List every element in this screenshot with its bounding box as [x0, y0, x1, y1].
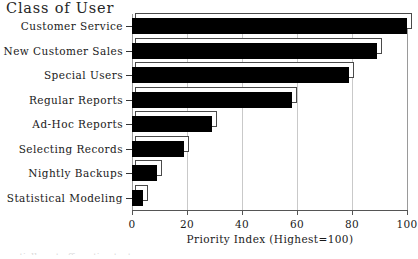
y-axis-label: Special Users [0, 68, 123, 82]
y-axis-label: Customer Service [0, 19, 123, 33]
bar [132, 92, 292, 108]
y-axis-label: New Customer Sales [0, 44, 123, 58]
bar [132, 67, 349, 83]
x-axis-tick-label: 20 [180, 218, 194, 230]
x-axis-tick [352, 210, 353, 215]
x-axis-tick-label: 100 [396, 218, 417, 230]
bar [132, 116, 212, 132]
bar-side-face [407, 13, 412, 29]
bar-front-face [132, 116, 212, 132]
bar-front-face [132, 92, 292, 108]
y-axis-label: Selecting Records [0, 142, 123, 156]
caption-sliver: partially cut off caption text [4, 252, 194, 255]
bar [132, 18, 407, 34]
y-axis-label: Ad-Hoc Reports [0, 117, 123, 131]
bar-front-face [132, 141, 184, 157]
bar-front-face [132, 165, 157, 181]
x-axis-title: Priority Index (Highest=100) [132, 233, 408, 245]
x-axis-tick [132, 210, 133, 215]
x-axis-tick [297, 210, 298, 215]
x-axis-tick [407, 210, 408, 215]
bar [132, 43, 377, 59]
bar-row [132, 39, 407, 64]
bar-front-face [132, 43, 377, 59]
y-axis-label: Nightly Backups [0, 166, 123, 180]
bar-row [132, 161, 407, 186]
bar-row [132, 112, 407, 137]
bar-side-face [292, 87, 297, 103]
x-axis-tick-label: 80 [345, 218, 359, 230]
x-axis-tick-label: 0 [128, 218, 135, 230]
x-axis-line [132, 210, 408, 211]
bar [132, 165, 157, 181]
bar [132, 141, 184, 157]
bar-front-face [132, 18, 407, 34]
bar-row [132, 137, 407, 162]
bar-side-face [184, 136, 189, 152]
bar-side-face [349, 62, 354, 78]
gridline-100 [407, 14, 408, 210]
y-axis-label: Statistical Modeling [0, 191, 123, 205]
bar-front-face [132, 67, 349, 83]
bar-row [132, 14, 407, 39]
y-axis-label: Regular Reports [0, 93, 123, 107]
bar-row [132, 63, 407, 88]
x-axis-tick-label: 60 [290, 218, 304, 230]
bar-side-face [157, 160, 162, 176]
plot-area [132, 14, 407, 210]
bar-side-face [377, 38, 382, 54]
x-axis-tick [187, 210, 188, 215]
chart-title: Class of User [6, 0, 114, 16]
bar-front-face [132, 190, 143, 206]
bar-side-face [143, 185, 148, 201]
x-axis-tick-label: 40 [235, 218, 249, 230]
bar-row [132, 186, 407, 211]
x-axis-tick [242, 210, 243, 215]
bar [132, 190, 143, 206]
bar-side-face [212, 111, 217, 127]
bar-row [132, 88, 407, 113]
